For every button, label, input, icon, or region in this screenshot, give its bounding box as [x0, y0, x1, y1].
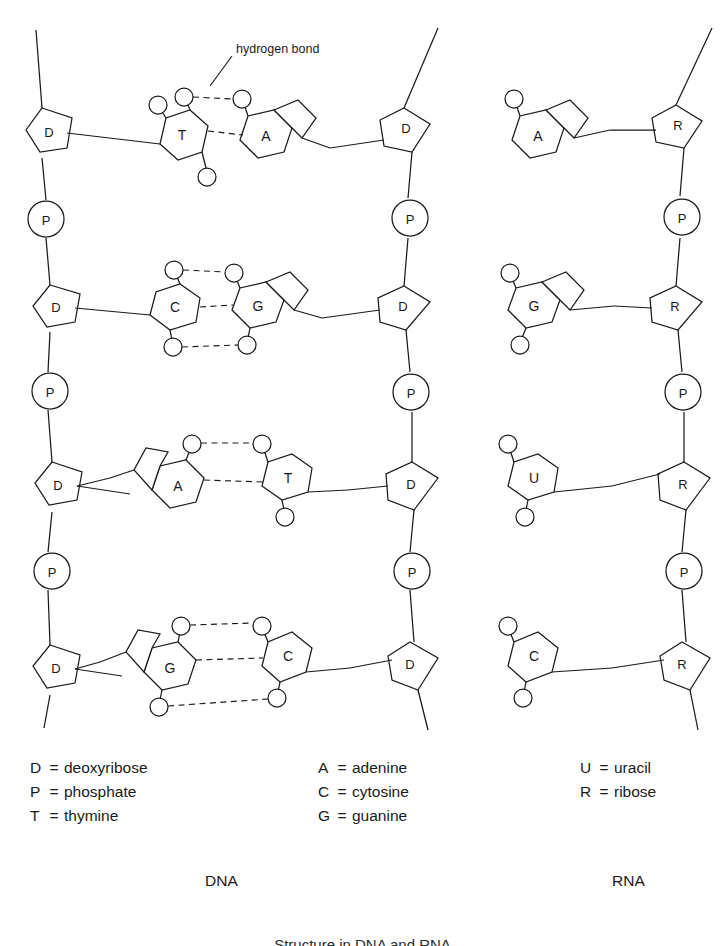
- legend-equals: =: [332, 804, 352, 828]
- rna-phosphate-1: P: [664, 199, 700, 235]
- legend-name: phosphate: [64, 780, 136, 804]
- svg-text:C: C: [283, 648, 293, 664]
- svg-text:P: P: [407, 386, 416, 401]
- rna-ribose-4: R: [660, 642, 710, 690]
- legend-name: ribose: [614, 780, 656, 804]
- svg-text:T: T: [178, 127, 187, 143]
- svg-text:C: C: [170, 299, 180, 315]
- legend-equals: =: [44, 780, 64, 804]
- svg-text:R: R: [673, 118, 682, 133]
- svg-text:P: P: [42, 213, 51, 228]
- legend-item-ribose: R = ribose: [580, 780, 656, 804]
- legend-symbol: R: [580, 780, 594, 804]
- dna-left-phosphate-2: P: [32, 373, 68, 409]
- dna-right-deoxyribose-3: D: [386, 462, 438, 510]
- rna-strand-title: RNA: [612, 872, 645, 890]
- dna-right-phosphate-2: P: [393, 374, 429, 410]
- legend-name: guanine: [352, 804, 407, 828]
- svg-text:A: A: [261, 128, 271, 144]
- dna-left-phosphate-3: P: [34, 553, 70, 589]
- legend-column-rna: U = uracil R = ribose: [580, 756, 656, 804]
- svg-text:D: D: [51, 661, 60, 676]
- svg-text:T: T: [284, 470, 293, 486]
- svg-text:D: D: [406, 477, 415, 492]
- rna-base-cytosine: C: [499, 617, 664, 707]
- svg-text:R: R: [678, 477, 687, 492]
- dna-base-pair-4: G C: [75, 617, 392, 716]
- legend-column-backbone: D = deoxyribose P = phosphate T = thymin…: [30, 756, 148, 828]
- svg-text:P: P: [678, 211, 687, 226]
- svg-text:D: D: [405, 657, 414, 672]
- hydrogen-bond-callout: hydrogen bond: [210, 42, 319, 86]
- legend-name: thymine: [64, 804, 118, 828]
- legend-symbol: U: [580, 756, 594, 780]
- svg-text:A: A: [173, 478, 183, 494]
- legend-symbol: C: [318, 780, 332, 804]
- legend-symbol: D: [30, 756, 44, 780]
- base-thymine-3: T: [253, 435, 388, 526]
- rna-ribose-3: R: [658, 462, 710, 510]
- legend-item-thymine: T = thymine: [30, 804, 148, 828]
- svg-text:P: P: [408, 565, 417, 580]
- legend-equals: =: [594, 780, 614, 804]
- svg-text:P: P: [46, 385, 55, 400]
- rna-base-guanine: G: [501, 264, 652, 354]
- svg-text:R: R: [670, 299, 679, 314]
- dna-left-deoxyribose-4: D: [33, 645, 80, 688]
- svg-text:C: C: [529, 648, 539, 664]
- rna-base-uracil: U: [499, 435, 660, 526]
- base-adenine-1: A: [233, 90, 384, 158]
- svg-text:P: P: [679, 386, 688, 401]
- base-cytosine-2: C: [150, 261, 200, 356]
- dna-base-pair-1: T A hydrogen bond: [67, 42, 384, 186]
- dna-right-phosphate-3: P: [394, 553, 430, 589]
- dna-left-deoxyribose-1: D: [26, 108, 72, 152]
- legend-name: uracil: [614, 756, 651, 780]
- figure-caption: Structure in DNA and RNA: [0, 936, 725, 946]
- dna-right-deoxyribose-2: D: [378, 286, 430, 330]
- legend-item-deoxyribose: D = deoxyribose: [30, 756, 148, 780]
- rna-base-adenine: A: [505, 90, 656, 158]
- dna-left-phosphate-1: P: [28, 201, 64, 237]
- legend-column-bases: A = adenine C = cytosine G = guanine: [318, 756, 409, 828]
- legend-symbol: P: [30, 780, 44, 804]
- svg-text:P: P: [48, 565, 57, 580]
- legend-equals: =: [332, 756, 352, 780]
- base-cytosine-4: C: [253, 617, 392, 707]
- hydrogen-bond-label: hydrogen bond: [236, 42, 319, 56]
- legend-item-adenine: A = adenine: [318, 756, 409, 780]
- legend-equals: =: [44, 756, 64, 780]
- svg-text:P: P: [406, 212, 415, 227]
- svg-text:D: D: [44, 125, 53, 140]
- legend-item-phosphate: P = phosphate: [30, 780, 148, 804]
- base-guanine-4: G: [75, 617, 196, 716]
- legend-item-guanine: G = guanine: [318, 804, 409, 828]
- base-adenine-3: A: [77, 435, 204, 508]
- dna-right-deoxyribose-1: D: [380, 108, 430, 152]
- legend-equals: =: [332, 780, 352, 804]
- legend-item-uracil: U = uracil: [580, 756, 656, 780]
- dna-right-phosphate-1: P: [392, 200, 428, 236]
- legend-name: adenine: [352, 756, 407, 780]
- legend-symbol: G: [318, 804, 332, 828]
- svg-text:D: D: [401, 121, 410, 136]
- legend-item-cytosine: C = cytosine: [318, 780, 409, 804]
- rna-phosphate-2: P: [665, 374, 701, 410]
- base-thymine-1: T: [149, 88, 216, 186]
- rna-ribose-2: R: [650, 286, 702, 330]
- svg-text:G: G: [165, 660, 176, 676]
- legend-equals: =: [44, 804, 64, 828]
- svg-text:G: G: [253, 298, 264, 314]
- legend-name: cytosine: [352, 780, 409, 804]
- dna-base-pair-2: C G: [75, 261, 380, 356]
- dna-base-pair-3: A T: [77, 435, 388, 526]
- legend-symbol: A: [318, 756, 332, 780]
- svg-text:U: U: [529, 470, 539, 486]
- dna-right-deoxyribose-4: D: [388, 642, 438, 690]
- dna-left-backbone: D P D P D P D: [26, 30, 82, 728]
- dna-left-deoxyribose-2: D: [33, 285, 80, 327]
- svg-text:D: D: [51, 300, 60, 315]
- legend-equals: =: [594, 756, 614, 780]
- legend-name: deoxyribose: [64, 756, 148, 780]
- rna-backbone: R P R P R P R: [650, 28, 712, 730]
